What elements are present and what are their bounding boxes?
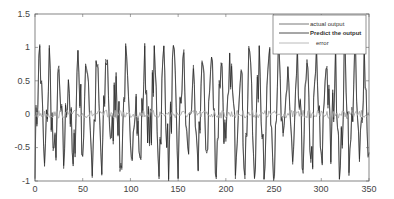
legend-label-actual: actual output [310, 21, 345, 27]
x-tick-label: 50 [78, 184, 88, 194]
y-tick-label: 0.5 [17, 76, 30, 86]
y-tick-label: -0.5 [14, 142, 30, 152]
x-tick-label: 200 [218, 184, 233, 194]
x-tick-label: 300 [313, 184, 328, 194]
y-tick-label: 0 [25, 109, 30, 119]
y-tick-label: 1 [25, 42, 30, 52]
x-tick-label: 150 [170, 184, 185, 194]
x-tick-label: 0 [32, 184, 37, 194]
line-chart: 1.5 1 0.5 0 -0.5 -1 0 50 100 150 200 250… [0, 0, 394, 199]
x-tick-label: 350 [361, 184, 376, 194]
y-tick-label: -1 [22, 176, 30, 186]
x-tick-label: 100 [123, 184, 138, 194]
x-tick-label: 250 [266, 184, 281, 194]
legend-label-predict: Predict the output [310, 30, 361, 36]
y-tick-label: 1.5 [17, 9, 30, 19]
legend: actual output Predict the output error [273, 15, 366, 54]
legend-label-error: error [316, 40, 329, 46]
